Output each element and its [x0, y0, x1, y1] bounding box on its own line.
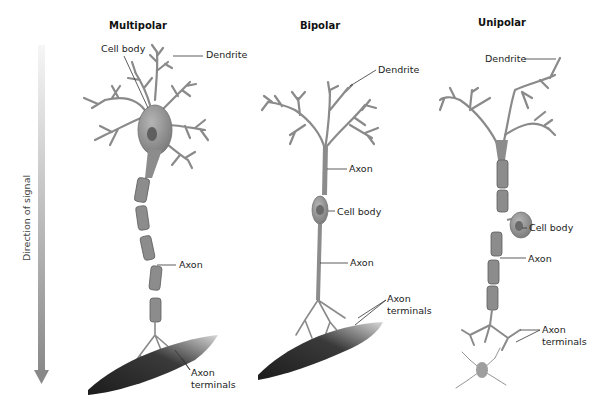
multipolar-title: Multipolar: [109, 20, 167, 31]
bipolar-axon-terminals-label-2: terminals: [387, 305, 432, 316]
multipolar-axon-terminals-label-2: terminals: [191, 379, 236, 390]
bipolar-axon-lower-label: Axon: [350, 257, 374, 268]
direction-label: Direction of signal: [21, 175, 32, 261]
bipolar-axon-upper-label: Axon: [349, 163, 373, 174]
multipolar-axon-label: Axon: [179, 259, 203, 270]
unipolar-axon-label: Axon: [528, 253, 552, 264]
multipolar-dendrite-label: Dendrite: [206, 49, 247, 60]
multipolar-neuron: Multipolar Cell body Dendrite Axon: [84, 20, 247, 395]
bipolar-dendrite-label: Dendrite: [378, 64, 419, 75]
bipolar-muscle-fiber: [258, 322, 383, 380]
target-neuron: [476, 362, 488, 378]
bipolar-cell-body-label: Cell body: [337, 206, 382, 217]
bipolar-title: Bipolar: [300, 20, 340, 31]
unipolar-dendrite-label: Dendrite: [485, 53, 526, 64]
bipolar-neuron: Bipolar Dendrite Axon Cell body Axon Axo…: [258, 20, 432, 380]
unipolar-title: Unipolar: [478, 17, 526, 28]
unipolar-axon-terminals-label-1: Axon: [542, 324, 566, 335]
unipolar-neuron: Unipolar Dendrite Cell body Axon Axon te…: [440, 17, 587, 388]
unipolar-cell-body-label: Cell body: [529, 222, 574, 233]
neuron-types-diagram: Direction of signal Multipolar Cell body: [0, 0, 604, 403]
unipolar-axon-terminals-label-2: terminals: [542, 336, 587, 347]
bipolar-axon-terminals-label-1: Axon: [387, 293, 411, 304]
multipolar-axon-terminals-label-1: Axon: [191, 367, 215, 378]
direction-arrow: [34, 45, 49, 384]
multipolar-cell-body-label: Cell body: [101, 43, 146, 54]
